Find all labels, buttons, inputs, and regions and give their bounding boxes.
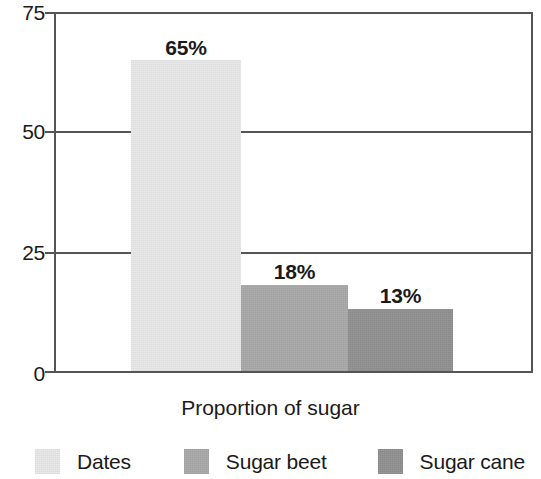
chart-legend: Dates Sugar beet Sugar cane bbox=[0, 444, 541, 479]
legend-item-dates[interactable]: Dates bbox=[35, 444, 131, 479]
bar-sugar-cane[interactable] bbox=[348, 309, 453, 371]
gridline-0 bbox=[54, 371, 533, 373]
y-axis-tick-label-0: 0 bbox=[1, 363, 45, 384]
y-axis-line bbox=[54, 12, 56, 373]
y-axis-tick-label-75: 75 bbox=[1, 2, 45, 23]
legend-label-dates: Dates bbox=[77, 451, 131, 472]
legend-swatch-sugar-cane bbox=[378, 449, 403, 474]
gridline-50 bbox=[54, 131, 533, 133]
plot-area: 65% 18% 13% bbox=[54, 12, 533, 373]
y-axis-tick-label-25: 25 bbox=[1, 242, 45, 263]
x-axis-title: Proportion of sugar bbox=[0, 396, 541, 420]
plot-right-edge bbox=[531, 12, 533, 373]
data-label-sugar-cane: 13% bbox=[348, 285, 453, 306]
bar-chart-figure: 75 50 25 0 65% 18% 13% bbox=[0, 0, 541, 479]
y-axis-tick-label-50: 50 bbox=[1, 121, 45, 142]
legend-label-sugar-beet: Sugar beet bbox=[226, 451, 327, 472]
gridline-75 bbox=[54, 12, 533, 14]
data-label-dates: 65% bbox=[131, 37, 241, 58]
legend-item-sugar-cane[interactable]: Sugar cane bbox=[378, 444, 525, 479]
bar-dates[interactable] bbox=[131, 60, 241, 371]
swatch-texture bbox=[378, 449, 403, 474]
data-label-sugar-beet: 18% bbox=[241, 261, 348, 282]
legend-label-sugar-cane: Sugar cane bbox=[420, 451, 525, 472]
gridline-25 bbox=[54, 252, 533, 254]
swatch-texture bbox=[35, 449, 60, 474]
bar-texture bbox=[131, 60, 241, 371]
bar-sugar-beet[interactable] bbox=[241, 285, 348, 371]
bar-texture bbox=[241, 285, 348, 371]
legend-item-sugar-beet[interactable]: Sugar beet bbox=[184, 444, 327, 479]
legend-swatch-dates bbox=[35, 449, 60, 474]
swatch-texture bbox=[184, 449, 209, 474]
legend-swatch-sugar-beet bbox=[184, 449, 209, 474]
bar-texture bbox=[348, 309, 453, 371]
